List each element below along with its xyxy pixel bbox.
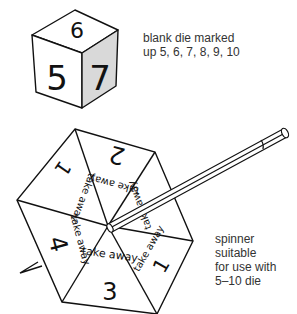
- die-top-number: 9: [70, 17, 84, 42]
- spinner-caption: spinner suitable for use with 5–10 die: [215, 232, 276, 288]
- die-front-number: 5: [46, 58, 68, 98]
- die-caption: blank die marked up 5, 6, 7, 8, 9, 10: [143, 31, 240, 59]
- spinner-spike: [20, 262, 42, 273]
- svg-text:3: 3: [102, 278, 117, 306]
- die-side-number: 7: [89, 58, 111, 98]
